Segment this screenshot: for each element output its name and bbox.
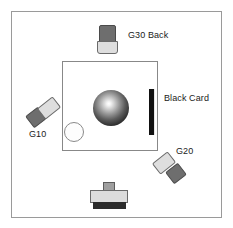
label-g20: G20 [176,146,193,156]
light-body [97,41,118,54]
black-card-flag [149,89,154,135]
light-head [99,25,116,42]
label-black-card: Black Card [164,93,209,103]
sphere-subject [93,90,129,126]
lighting-setup-diagram: G30 Back Black Card G10 G20 [0,0,233,228]
white-reference-circle [64,122,84,142]
label-g30-back: G30 Back [128,30,168,40]
label-g10: G10 [29,129,46,139]
camera-base [93,202,126,209]
